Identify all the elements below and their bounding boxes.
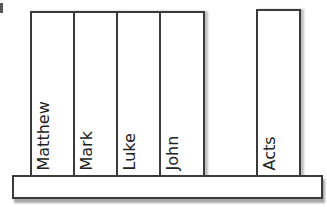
book-label: Luke [120, 133, 139, 170]
book-label: Matthew [34, 101, 53, 170]
book-label: Mark [77, 131, 96, 170]
book-luke: Luke [116, 11, 161, 177]
book-acts: Acts [256, 9, 301, 177]
book-label: Acts [260, 136, 279, 170]
corner-mark [0, 3, 3, 13]
shelf [12, 175, 323, 199]
book-label: John [163, 136, 182, 171]
book-john: John [159, 11, 205, 177]
book-mark: Mark [73, 11, 118, 177]
book-matthew: Matthew [30, 11, 75, 177]
